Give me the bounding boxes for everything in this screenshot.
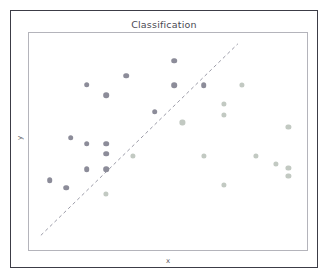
scatter-point-class-b	[239, 82, 244, 87]
scatter-point-class-a	[68, 135, 74, 141]
scatter-point-class-b	[221, 102, 226, 107]
scatter-point-class-b	[221, 182, 226, 187]
scatter-point-class-b	[286, 124, 291, 129]
scatter-point-class-a	[84, 141, 90, 147]
scatter-point-class-a	[47, 177, 53, 183]
scatter-point-class-a	[171, 58, 177, 64]
plot-title: Classification	[10, 19, 318, 30]
scatter-point-class-b	[253, 154, 258, 159]
scatter-point-class-b	[286, 165, 291, 170]
plot-area	[28, 32, 308, 251]
scatter-point-class-b	[201, 154, 206, 159]
scatter-point-class-a	[201, 82, 207, 88]
scatter-point-class-a	[84, 166, 90, 172]
scatter-point-class-b	[221, 112, 226, 117]
scatter-point-class-a	[103, 92, 109, 98]
y-axis-label: y	[16, 131, 24, 145]
x-axis-label: x	[28, 257, 308, 265]
scatter-point-class-a	[103, 141, 109, 147]
scatter-point-class-a	[171, 82, 177, 88]
scatter-points-layer	[29, 33, 307, 250]
classification-scatter-figure: Classification y x	[0, 0, 330, 280]
scatter-point-class-a	[152, 109, 158, 115]
scatter-point-class-b	[286, 174, 291, 179]
scatter-point-class-b	[131, 154, 136, 159]
scatter-point-class-b	[103, 191, 108, 196]
scatter-point-class-a	[84, 82, 90, 88]
scatter-point-class-a	[63, 185, 69, 191]
scatter-point-class-b	[273, 161, 278, 166]
scatter-point-class-a	[103, 151, 109, 157]
scatter-point-class-b	[180, 120, 185, 125]
scatter-point-class-a	[103, 166, 109, 172]
scatter-point-class-a	[124, 73, 130, 79]
